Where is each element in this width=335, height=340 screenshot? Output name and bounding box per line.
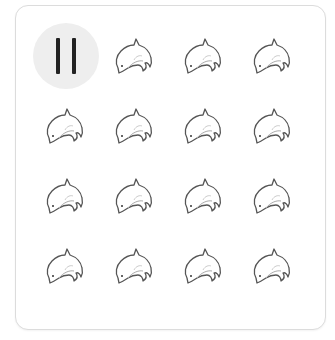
dolphin-icon bbox=[112, 246, 158, 286]
dolphin-icon bbox=[112, 176, 158, 216]
dolphin-tile[interactable] bbox=[31, 161, 100, 231]
dolphin-icon bbox=[181, 176, 227, 216]
dolphin-tile[interactable] bbox=[31, 231, 100, 301]
dolphin-icon bbox=[250, 36, 296, 76]
dolphin-tile[interactable] bbox=[100, 161, 169, 231]
pause-button[interactable] bbox=[31, 21, 100, 91]
game-board bbox=[15, 5, 326, 330]
dolphin-icon bbox=[43, 246, 89, 286]
dolphin-tile[interactable] bbox=[31, 91, 100, 161]
dolphin-tile[interactable] bbox=[169, 21, 238, 91]
pause-icon bbox=[33, 23, 99, 89]
dolphin-tile[interactable] bbox=[238, 161, 307, 231]
tile-grid bbox=[31, 21, 307, 307]
dolphin-icon bbox=[112, 36, 158, 76]
dolphin-icon bbox=[43, 176, 89, 216]
dolphin-icon bbox=[250, 176, 296, 216]
dolphin-icon bbox=[250, 106, 296, 146]
pause-bar bbox=[56, 38, 60, 74]
dolphin-tile[interactable] bbox=[100, 21, 169, 91]
dolphin-icon bbox=[250, 246, 296, 286]
dolphin-tile[interactable] bbox=[169, 161, 238, 231]
dolphin-tile[interactable] bbox=[169, 91, 238, 161]
dolphin-icon bbox=[181, 246, 227, 286]
dolphin-tile[interactable] bbox=[238, 231, 307, 301]
dolphin-icon bbox=[112, 106, 158, 146]
dolphin-tile[interactable] bbox=[169, 231, 238, 301]
pause-bar bbox=[72, 38, 76, 74]
dolphin-icon bbox=[181, 36, 227, 76]
dolphin-tile[interactable] bbox=[238, 21, 307, 91]
dolphin-icon bbox=[181, 106, 227, 146]
dolphin-tile[interactable] bbox=[100, 231, 169, 301]
dolphin-tile[interactable] bbox=[238, 91, 307, 161]
dolphin-icon bbox=[43, 106, 89, 146]
dolphin-tile[interactable] bbox=[100, 91, 169, 161]
